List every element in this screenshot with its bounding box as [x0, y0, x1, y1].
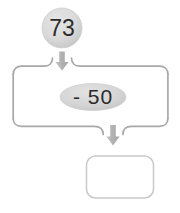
function-machine-diagram: 73 - 50: [0, 0, 180, 213]
arrow-to-answer-icon: [106, 125, 119, 146]
operation-label: - 50: [60, 84, 126, 110]
arrow-from-start-icon: [55, 52, 68, 71]
answer-label: [86, 156, 154, 198]
start-value-label: 73: [42, 13, 82, 43]
